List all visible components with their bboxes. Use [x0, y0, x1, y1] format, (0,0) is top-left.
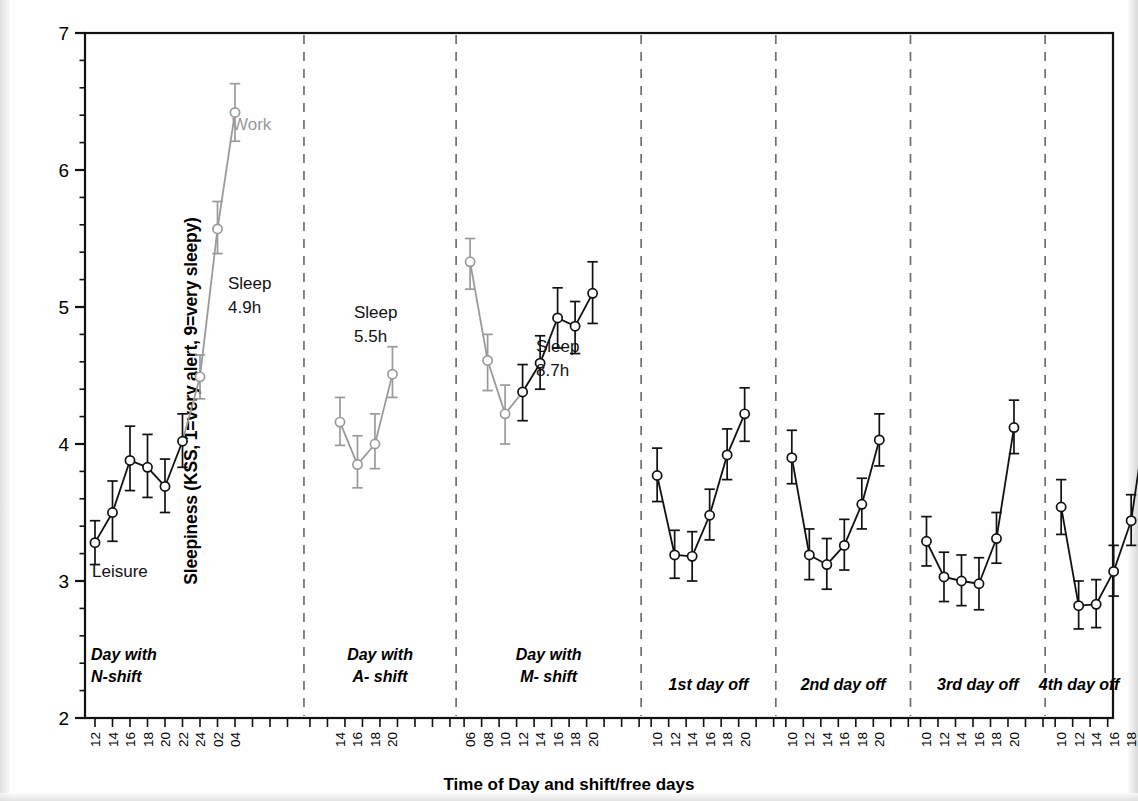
x-tick-label: 18 [720, 732, 735, 747]
x-tick-label: 02 [211, 732, 226, 747]
x-tick-label: 14 [1089, 732, 1104, 748]
series-segment [165, 441, 183, 486]
series-segment [844, 504, 862, 545]
x-tick-label: 12 [88, 732, 103, 747]
data-point [108, 508, 117, 517]
y-tick-label: 7 [58, 23, 69, 44]
series-segment [862, 440, 880, 504]
data-point [822, 560, 831, 569]
series-segment [1096, 571, 1114, 604]
data-point [125, 456, 134, 465]
data-point [688, 552, 697, 561]
data-point [992, 534, 1001, 543]
data-point [571, 322, 580, 331]
series-segment [710, 455, 728, 515]
y-tick-label: 3 [58, 571, 69, 592]
x-tick-label: 10 [785, 732, 800, 747]
x-tick-label: 20 [872, 732, 887, 747]
series-segment [1061, 507, 1079, 606]
x-tick-label: 10 [919, 732, 934, 747]
panel-label: Day with [91, 646, 157, 663]
x-tick-label: 12 [668, 732, 683, 747]
data-point [1057, 502, 1066, 511]
x-tick-label: 20 [738, 732, 753, 747]
panel-label: N-shift [91, 668, 142, 685]
y-tick-label: 2 [58, 708, 69, 729]
data-point [178, 437, 187, 446]
data-point [670, 550, 679, 559]
data-point [740, 409, 749, 418]
data-point [653, 471, 662, 480]
data-point [335, 417, 344, 426]
x-tick-label: 14 [333, 732, 348, 748]
x-tick-label: 14 [954, 732, 969, 748]
chart-annotation: Work [232, 115, 272, 134]
data-point [1109, 567, 1118, 576]
x-tick-label: 16 [703, 732, 718, 747]
panel-label: Day with [347, 646, 413, 663]
data-point [483, 356, 492, 365]
plot-area: 234567121416182022240204Day withN-shift1… [0, 0, 1138, 801]
data-point [1074, 601, 1083, 610]
x-tick-label: 24 [193, 732, 208, 748]
chart-annotation: Leisure [92, 562, 148, 581]
data-point [466, 257, 475, 266]
y-tick-label: 4 [58, 434, 69, 455]
data-point [787, 453, 796, 462]
data-point [939, 572, 948, 581]
series-segment [375, 374, 393, 444]
x-tick-label: 18 [141, 732, 156, 747]
x-tick-label: 12 [802, 732, 817, 747]
x-tick-label: 20 [586, 732, 601, 747]
panel-label: M- shift [520, 668, 578, 685]
data-point [143, 463, 152, 472]
series-segment [996, 428, 1014, 539]
x-tick-label: 10 [1054, 732, 1069, 747]
series-segment [113, 460, 131, 512]
x-tick-label: 14 [106, 732, 121, 748]
y-tick-label: 6 [58, 160, 69, 181]
x-tick-label: 18 [568, 732, 583, 747]
data-point [588, 289, 597, 298]
series-segment [727, 414, 745, 455]
data-point [195, 372, 204, 381]
data-point [553, 313, 562, 322]
data-point [370, 439, 379, 448]
y-tick-label: 5 [58, 297, 69, 318]
series-segment [183, 377, 201, 441]
x-tick-label: 14 [685, 732, 700, 748]
data-point [1092, 600, 1101, 609]
data-point [213, 224, 222, 233]
data-point [705, 511, 714, 520]
x-tick-label: 20 [158, 732, 173, 747]
panel-label: Day with [516, 646, 582, 663]
data-point [501, 409, 510, 418]
x-tick-label: 16 [972, 732, 987, 747]
data-point [805, 550, 814, 559]
x-tick-label: 12 [937, 732, 952, 747]
x-tick-label: 16 [350, 732, 365, 747]
x-tick-label: 12 [1072, 732, 1087, 747]
panel-label: 2nd day off [800, 676, 888, 693]
x-tick-label: 16 [123, 732, 138, 747]
x-tick-label: 14 [820, 732, 835, 748]
panel-label: A- shift [351, 668, 408, 685]
chart-svg: 234567121416182022240204Day withN-shift1… [0, 0, 1138, 801]
chart-annotation: 8.7h [536, 361, 569, 380]
x-tick-label: 16 [551, 732, 566, 747]
x-tick-label: 20 [385, 732, 400, 747]
x-tick-label: 18 [855, 732, 870, 747]
series-segment [657, 476, 675, 555]
x-tick-label: 18 [1124, 732, 1138, 747]
x-tick-label: 18 [368, 732, 383, 747]
data-point [1127, 516, 1136, 525]
series-segment [926, 541, 944, 577]
x-tick-label: 08 [481, 732, 496, 747]
data-point [723, 450, 732, 459]
data-point [957, 576, 966, 585]
data-point [90, 538, 99, 547]
series-segment [575, 293, 593, 326]
x-tick-label: 12 [516, 732, 531, 747]
x-tick-label: 18 [989, 732, 1004, 747]
data-point [388, 370, 397, 379]
